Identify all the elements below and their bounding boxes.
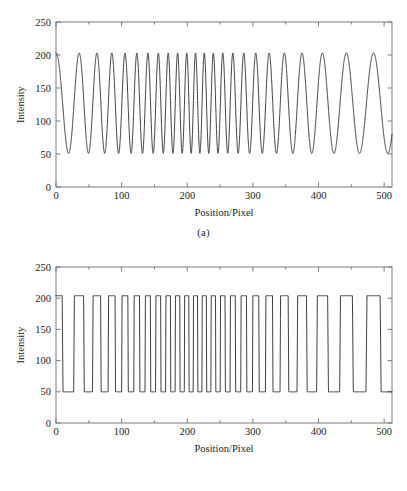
chart-a-x-axis-title: Position/Pixel <box>195 207 254 218</box>
tick-label: 500 <box>376 426 392 437</box>
tick-label: 50 <box>41 386 52 397</box>
chart-b-data-line <box>56 296 392 392</box>
tick-label: 300 <box>245 426 261 437</box>
tick-label: 500 <box>376 190 392 201</box>
tick-label: 50 <box>41 149 52 160</box>
panel-a-sinusoidal-chirp-chart: 050100150200250 0100200300400500 Intensi… <box>0 0 407 250</box>
tick-label: 0 <box>46 418 51 429</box>
tick-label: 200 <box>35 293 51 304</box>
tick-label: 200 <box>179 190 195 201</box>
tick-label: 200 <box>35 50 51 61</box>
tick-label: 0 <box>46 182 51 193</box>
chart-b-x-tick-labels: 0100200300400500 <box>53 426 392 437</box>
tick-label: 150 <box>35 324 51 335</box>
tick-label: 100 <box>114 426 130 437</box>
figure-two-panel-chirp-plots: 050100150200250 0100200300400500 Intensi… <box>0 0 407 491</box>
chart-b-x-axis-title: Position/Pixel <box>195 443 254 454</box>
chart-a-subfigure-caption: (a) <box>0 227 407 238</box>
chart-b-y-axis-title: Intensity <box>15 326 26 363</box>
tick-label: 400 <box>311 190 327 201</box>
chart-b-canvas: 050100150200250 0100200300400500 Intensi… <box>0 248 407 491</box>
tick-label: 100 <box>35 355 51 366</box>
tick-label: 200 <box>179 426 195 437</box>
chart-a-tick-marks <box>56 22 392 187</box>
tick-label: 250 <box>35 17 51 28</box>
chart-a-axes-frame <box>56 22 392 187</box>
chart-a-canvas: 050100150200250 0100200300400500 Intensi… <box>0 0 407 250</box>
tick-label: 100 <box>114 190 130 201</box>
tick-label: 150 <box>35 83 51 94</box>
chart-a-data-line <box>56 53 392 153</box>
panel-b-square-chirp-chart: 050100150200250 0100200300400500 Intensi… <box>0 248 407 491</box>
tick-label: 0 <box>53 426 58 437</box>
tick-label: 250 <box>35 262 51 273</box>
tick-label: 300 <box>245 190 261 201</box>
chart-b-axes-frame <box>56 267 392 423</box>
tick-label: 100 <box>35 116 51 127</box>
chart-a-y-tick-labels: 050100150200250 <box>35 17 51 193</box>
chart-a-x-tick-labels: 0100200300400500 <box>53 190 392 201</box>
chart-a-y-axis-title: Intensity <box>15 85 26 122</box>
tick-label: 0 <box>53 190 58 201</box>
tick-label: 400 <box>311 426 327 437</box>
chart-b-tick-marks <box>56 267 392 423</box>
chart-b-y-tick-labels: 050100150200250 <box>35 262 51 429</box>
